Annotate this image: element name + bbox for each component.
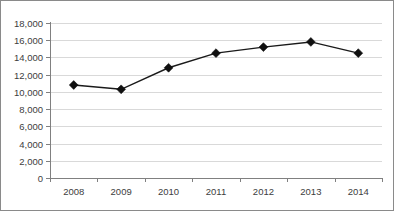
- y-tick-label: 10,000: [14, 87, 43, 98]
- y-tick-label: 0: [38, 173, 43, 184]
- y-tick-label: 2,000: [19, 156, 43, 167]
- data-point-marker: [69, 81, 78, 90]
- y-tick-label: 18,000: [14, 18, 43, 29]
- x-tick-label: 2012: [253, 186, 274, 197]
- data-point-marker: [259, 43, 268, 52]
- x-tick-label: 2009: [111, 186, 132, 197]
- x-tick-label: 2013: [300, 186, 321, 197]
- y-axis-tick-labels: 02,0004,0006,0008,00010,00012,00014,0001…: [14, 18, 43, 184]
- y-tick-label: 12,000: [14, 70, 43, 81]
- y-tick-label: 4,000: [19, 139, 43, 150]
- data-point-marker: [164, 63, 173, 72]
- x-axis-tick-labels: 2008200920102011201220132014: [63, 186, 369, 197]
- data-point-markers: [69, 38, 362, 94]
- data-point-marker: [212, 49, 221, 58]
- y-tick-label: 6,000: [19, 121, 43, 132]
- y-tick-label: 8,000: [19, 104, 43, 115]
- chart-plot-area: 02,0004,0006,0008,00010,00012,00014,0001…: [1, 1, 393, 210]
- y-axis-ticks: [46, 24, 50, 179]
- data-point-marker: [354, 49, 363, 58]
- chart-canvas: 02,0004,0006,0008,00010,00012,00014,0001…: [1, 1, 393, 210]
- y-tick-label: 14,000: [14, 52, 43, 63]
- x-tick-label: 2008: [63, 186, 84, 197]
- x-tick-label: 2010: [158, 186, 179, 197]
- y-tick-label: 16,000: [14, 35, 43, 46]
- x-tick-label: 2014: [348, 186, 369, 197]
- x-tick-label: 2011: [206, 186, 226, 197]
- gridlines: [50, 24, 382, 162]
- data-point-marker: [306, 38, 315, 47]
- line-chart: 02,0004,0006,0008,00010,00012,00014,0001…: [0, 0, 394, 211]
